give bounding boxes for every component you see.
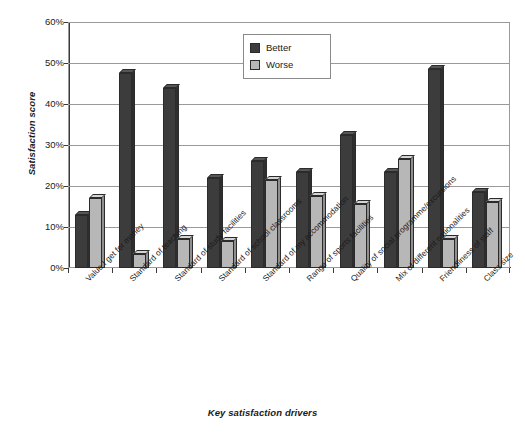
x-axis-tick-mark — [333, 268, 334, 273]
y-axis-tick-mark — [64, 63, 68, 64]
x-axis-tick-mark — [201, 268, 202, 273]
y-axis-tick-label: 20% — [22, 180, 64, 191]
x-axis-tick-mark — [245, 268, 246, 273]
legend-item[interactable]: Worse — [250, 56, 324, 73]
x-axis-tick-mark — [289, 268, 290, 273]
y-axis-tick-mark — [64, 22, 68, 23]
legend-item[interactable]: Better — [250, 39, 324, 56]
y-axis-tick-mark — [64, 186, 68, 187]
bar-chart: Satisfaction score 0%10%20%30%40%50%60% … — [0, 0, 525, 437]
x-axis-tick-mark — [156, 268, 157, 273]
bar-better[interactable] — [384, 172, 397, 268]
bar-worse[interactable] — [89, 198, 102, 268]
y-axis-tick-label: 60% — [22, 16, 64, 27]
bar-better[interactable] — [296, 172, 309, 268]
chart-legend: BetterWorse — [243, 34, 331, 79]
x-axis-tick-mark — [422, 268, 423, 273]
y-axis-tick-label: 10% — [22, 221, 64, 232]
bar-better[interactable] — [207, 178, 220, 268]
bar-better[interactable] — [75, 215, 88, 268]
x-axis-tick-mark — [68, 268, 69, 273]
y-axis-tick-label: 0% — [22, 262, 64, 273]
y-axis-tick-mark — [64, 104, 68, 105]
y-axis-tick-label: 30% — [22, 139, 64, 150]
x-axis-title: Key satisfaction drivers — [0, 407, 525, 418]
bar-worse[interactable] — [398, 159, 411, 268]
x-axis-tick-mark — [509, 268, 510, 273]
y-axis-tick-label: 50% — [22, 57, 64, 68]
y-axis-tick-mark — [64, 145, 68, 146]
y-axis-tick-mark — [64, 227, 68, 228]
gridline — [68, 22, 510, 23]
x-axis-tick-mark — [466, 268, 467, 273]
x-axis-tick-mark — [377, 268, 378, 273]
y-axis-tick-label: 40% — [22, 98, 64, 109]
legend-label: Worse — [266, 59, 293, 70]
legend-swatch — [250, 60, 260, 70]
legend-swatch — [250, 43, 260, 53]
x-axis-tick-mark — [112, 268, 113, 273]
legend-label: Better — [266, 42, 291, 53]
